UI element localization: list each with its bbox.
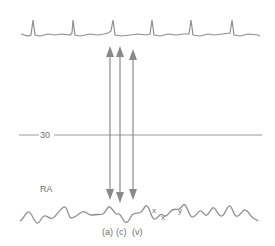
arrow-c <box>116 46 124 203</box>
ra-label: RA <box>40 184 53 194</box>
reference-value-label: 30 <box>40 130 50 140</box>
pressure-ecg-diagram <box>0 0 275 246</box>
ecg-trace <box>21 20 260 36</box>
wave-label-v: (v) <box>132 227 143 237</box>
ra-pressure-trace <box>20 205 258 224</box>
wave-label-x: x <box>152 206 156 216</box>
wave-label-a: (a) <box>102 227 113 237</box>
arrow-a <box>106 46 114 200</box>
wave-label-x-prime: x' <box>161 213 167 223</box>
arrow-v <box>129 49 137 200</box>
wave-label-y: y <box>178 206 182 216</box>
wave-label-c: (c) <box>116 227 127 237</box>
